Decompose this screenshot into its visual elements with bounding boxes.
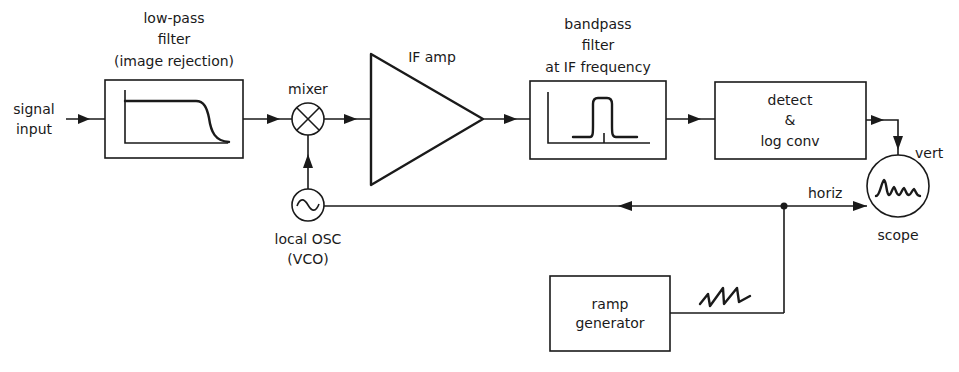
ramp-generator-block: ramp generator: [550, 276, 670, 351]
if-amplifier: IF amp: [371, 49, 483, 185]
spectrum-analyzer-diagram: signal input low-pass filter (image reje…: [0, 0, 959, 372]
vert-label: vert: [915, 145, 944, 161]
local-oscillator: local OSC (VCO): [275, 189, 342, 267]
mixer: mixer: [288, 81, 328, 135]
local-osc-label-2: (VCO): [287, 251, 328, 267]
detector-label-1: detect: [768, 92, 813, 108]
lowpass-to-mixer-wire: [243, 114, 292, 124]
bandpass-label-1: bandpass: [564, 16, 631, 32]
amplifier-triangle-icon: [371, 54, 483, 185]
vco-to-mixer-wire: [303, 135, 313, 189]
mixer-label: mixer: [288, 81, 328, 97]
detector-log-converter-block: detect & log conv: [715, 82, 866, 159]
ramp-label-2: generator: [575, 315, 644, 331]
if-amp-label: IF amp: [408, 49, 456, 65]
scope-label: scope: [877, 227, 918, 243]
ramp-label-1: ramp: [592, 296, 629, 312]
signal-input-label-2: input: [16, 121, 53, 137]
detector-label-2: &: [785, 112, 796, 128]
horiz-label: horiz: [808, 185, 842, 201]
signal-input-label-1: signal: [13, 101, 54, 117]
bandpass-label-3: at IF frequency: [545, 59, 650, 75]
bandpass-to-detector-wire: [666, 114, 715, 124]
mixer-to-ifamp-wire: [324, 114, 370, 124]
bandpass-filter-block: bandpass filter at IF frequency: [530, 16, 666, 159]
bandpass-label-2: filter: [582, 37, 615, 53]
ifamp-to-bandpass-wire: [483, 114, 530, 124]
input-wire: [66, 114, 105, 124]
oscilloscope: scope: [867, 155, 929, 243]
detector-label-3: log conv: [760, 133, 819, 149]
lowpass-label-1: low-pass: [143, 10, 204, 26]
local-osc-label-1: local OSC: [275, 231, 342, 247]
lowpass-label-3: (image rejection): [114, 53, 234, 69]
lowpass-label-2: filter: [158, 31, 191, 47]
vert-wire: vert: [866, 115, 944, 161]
sawtooth-wave-icon: [700, 288, 750, 306]
lowpass-filter-block: low-pass filter (image rejection): [105, 10, 243, 158]
